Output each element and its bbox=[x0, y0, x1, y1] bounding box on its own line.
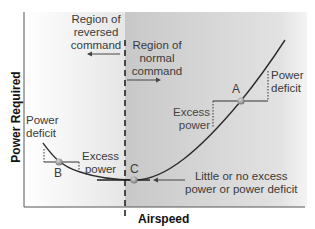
power-deficit-left-label: Power deficit bbox=[26, 114, 59, 140]
point-c-marker bbox=[130, 176, 137, 183]
point-a-marker bbox=[237, 97, 244, 104]
point-b-marker bbox=[55, 158, 62, 165]
power-required-diagram: Power Required Airspeed Region of revers… bbox=[0, 0, 315, 229]
y-axis-title: Power Required bbox=[9, 67, 23, 167]
normal-command-label: Region of normal command bbox=[128, 39, 186, 78]
little-or-no-excess-label: Little or no excess power or power defic… bbox=[185, 170, 298, 196]
point-a-label: A bbox=[232, 83, 240, 96]
point-b-label: B bbox=[54, 167, 62, 180]
excess-power-mid-label: Excess power bbox=[82, 150, 119, 176]
x-axis-title: Airspeed bbox=[138, 212, 189, 226]
reversed-command-label: Region of reversed command bbox=[68, 13, 124, 52]
excess-power-right-label: Excess power bbox=[173, 106, 210, 132]
power-deficit-right-label: Power deficit bbox=[271, 69, 304, 95]
point-c-label: C bbox=[130, 163, 139, 176]
